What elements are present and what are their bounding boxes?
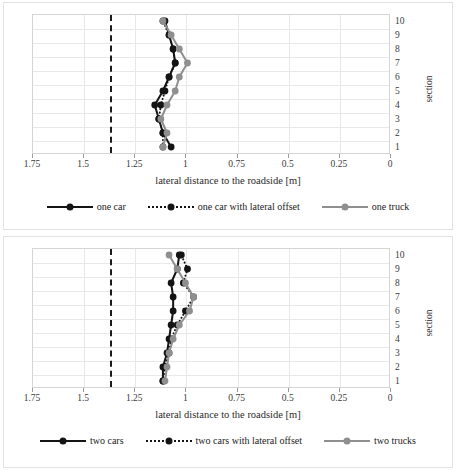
series-line xyxy=(165,255,194,381)
x-tick-mark xyxy=(390,388,391,392)
series-marker xyxy=(168,322,175,329)
legend-label: two cars xyxy=(90,435,124,446)
x-tick-mark xyxy=(237,154,238,158)
series-marker xyxy=(168,32,175,39)
legend-swatch-icon xyxy=(322,202,368,212)
series-marker xyxy=(170,336,177,343)
series-marker xyxy=(176,74,183,81)
x-tick-label: 0.5 xyxy=(282,159,294,169)
x-tick-label: 1.75 xyxy=(24,159,41,169)
series-marker xyxy=(151,102,158,109)
legend-item[interactable]: two trucks xyxy=(324,435,416,446)
x-tick-mark xyxy=(83,154,84,158)
series-marker xyxy=(170,46,177,53)
legend-label: one car xyxy=(97,201,126,212)
series-marker xyxy=(176,322,183,329)
series-marker xyxy=(160,18,167,25)
x-axis-title-bottom: lateral distance to the roadside [m] xyxy=(4,409,452,420)
series-marker xyxy=(174,266,181,273)
x-tick-mark xyxy=(288,388,289,392)
legend-item[interactable]: one car with lateral offset xyxy=(148,201,300,212)
chart-area-top: 1.751.51.2510.750.50.250 10987654321 lat… xyxy=(4,3,452,229)
x-tick-mark xyxy=(185,154,186,158)
series-marker xyxy=(157,102,164,109)
x-tick-mark xyxy=(134,154,135,158)
series-marker xyxy=(182,280,189,287)
chart-area-bottom: 1.751.51.2510.750.50.250 10987654321 lat… xyxy=(4,237,452,467)
series-marker xyxy=(162,88,169,95)
series-marker xyxy=(168,280,175,287)
legend-swatch-icon xyxy=(324,436,370,446)
x-tick-mark xyxy=(339,154,340,158)
x-tick-label: 1.5 xyxy=(77,159,89,169)
x-tick-label: 1.25 xyxy=(126,159,143,169)
x-tick-label: 0.75 xyxy=(228,393,245,403)
series-marker xyxy=(162,378,169,385)
series-marker xyxy=(186,308,193,315)
x-tick-mark xyxy=(288,154,289,158)
series-marker xyxy=(184,60,191,67)
x-tick-label: 0.5 xyxy=(282,393,294,403)
series-line xyxy=(163,255,179,381)
y-tick-label: 5 xyxy=(395,86,400,96)
y-tick-label: 7 xyxy=(395,58,400,68)
legend-swatch-icon xyxy=(40,436,86,446)
series-marker xyxy=(184,266,191,273)
y-tick-label: 6 xyxy=(395,306,400,316)
x-tick-mark xyxy=(134,388,135,392)
legend-marker-icon xyxy=(59,437,66,444)
y-tick-label: 2 xyxy=(395,362,400,372)
y-tick-label: 8 xyxy=(395,278,400,288)
y-tick-label: 10 xyxy=(395,250,405,260)
legend-swatch-icon xyxy=(148,202,194,212)
legend-item[interactable]: two cars with lateral offset xyxy=(146,435,302,446)
legend-label: two trucks xyxy=(374,435,416,446)
legend-swatch-icon xyxy=(146,436,192,446)
x-tick-label: 0 xyxy=(388,393,393,403)
y-tick-label: 8 xyxy=(395,44,400,54)
x-tick-mark xyxy=(237,388,238,392)
y-tick-label: 5 xyxy=(395,320,400,330)
legend-label: two cars with lateral offset xyxy=(196,435,302,446)
y-tick-label: 2 xyxy=(395,128,400,138)
y-tick-label: 3 xyxy=(395,114,400,124)
legend-marker-icon xyxy=(167,203,174,210)
series-marker xyxy=(157,116,164,123)
x-tick-label: 1.75 xyxy=(24,393,41,403)
x-tick-mark xyxy=(390,154,391,158)
chart-panel-one-vehicle: 1.751.51.2510.750.50.250 10987654321 lat… xyxy=(3,2,453,230)
y-tick-label: 6 xyxy=(395,72,400,82)
figure-container: 1.751.51.2510.750.50.250 10987654321 lat… xyxy=(0,0,462,471)
x-tick-label: 0.25 xyxy=(331,393,348,403)
series-marker xyxy=(172,60,179,67)
legend-marker-icon xyxy=(165,437,172,444)
y-tick-label: 4 xyxy=(395,100,400,110)
series-marker xyxy=(170,294,177,301)
series-layer-top xyxy=(4,3,454,231)
legend-marker-icon xyxy=(344,437,351,444)
series-marker xyxy=(160,144,167,151)
x-tick-label: 0.75 xyxy=(228,159,245,169)
legend-label: one truck xyxy=(372,201,410,212)
series-marker xyxy=(164,102,171,109)
y-axis-title-top: section xyxy=(424,76,434,103)
y-axis-title-bottom: section xyxy=(424,310,434,337)
x-tick-label: 0 xyxy=(388,159,393,169)
y-tick-label: 4 xyxy=(395,334,400,344)
legend-label: one car with lateral offset xyxy=(198,201,300,212)
x-tick-mark xyxy=(32,154,33,158)
series-line xyxy=(161,21,188,147)
y-tick-label: 1 xyxy=(395,142,400,152)
legend-top: one carone car with lateral offsetone tr… xyxy=(4,201,452,212)
series-marker xyxy=(166,252,173,259)
series-marker xyxy=(164,130,171,137)
legend-item[interactable]: one truck xyxy=(322,201,410,212)
legend-item[interactable]: two cars xyxy=(40,435,124,446)
x-tick-label: 0.25 xyxy=(331,159,348,169)
legend-item[interactable]: one car xyxy=(47,201,126,212)
legend-marker-icon xyxy=(341,203,348,210)
y-tick-label: 9 xyxy=(395,264,400,274)
series-marker xyxy=(168,144,175,151)
legend-bottom: two carstwo cars with lateral offsettwo … xyxy=(4,435,452,446)
x-tick-mark xyxy=(185,388,186,392)
